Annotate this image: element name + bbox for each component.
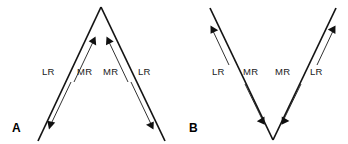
panel-a-label-lr-right: LR [138,66,151,77]
panel-b-mr-left-arrow [245,84,265,125]
panel-b-lr-right-arrow [317,26,336,66]
panel-a-lr-right-arrow [131,82,154,130]
panel-b-letter: B [189,121,198,135]
panel-b-mr-right-arrow [282,84,302,125]
panel-b-label-lr-right: LR [310,66,323,77]
panel-b-label-mr-left: MR [243,66,258,77]
panel-a-lr-left-arrow [47,82,71,130]
panel-a-label-mr-right: MR [103,66,118,77]
figure-container: LR MR MR LR A [0,0,348,144]
vergence-diagram: LR MR MR LR A [0,0,348,144]
panel-a: LR MR MR LR A [12,7,165,141]
panel-a-letter: A [12,121,21,135]
panel-b-lr-left-arrow [211,26,230,66]
panel-b-label-mr-right: MR [275,66,290,77]
panel-a-label-lr-left: LR [42,66,55,77]
panel-b-label-lr-left: LR [212,66,225,77]
panel-b: LR MR MR LR B [189,8,336,140]
panel-a-label-mr-left: MR [77,66,92,77]
